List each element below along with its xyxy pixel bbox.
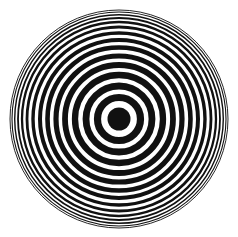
- concentric-circles-target: [0, 0, 238, 237]
- center-disc: [108, 108, 131, 131]
- figure-container: Black and white concentric circles formi…: [0, 0, 238, 237]
